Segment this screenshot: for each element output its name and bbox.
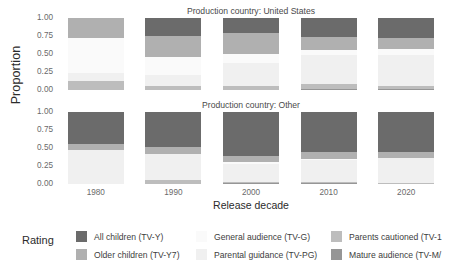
y-tick-label: 0.25	[21, 162, 53, 170]
bar-segment-tv-ma	[301, 89, 357, 90]
bar-segment-tv-pg	[301, 160, 357, 182]
legend-item-label: Older children (TV-Y7)	[94, 250, 180, 260]
bar-segment-tv-y	[145, 112, 201, 147]
bar-segment-tv-ma	[223, 183, 279, 184]
bar-other-1990	[145, 112, 201, 184]
x-axis-title: Release decade	[57, 199, 445, 211]
bar-segment-tv-pg	[68, 150, 124, 184]
y-tick-label: 0.00	[21, 86, 53, 94]
bar-segment-tv-g	[145, 57, 201, 75]
bar-segment-tv-pg	[301, 55, 357, 84]
bar-segment-tv-g	[223, 162, 279, 164]
bar-segment-tv-y7	[378, 38, 434, 49]
bar-segment-tv-14	[301, 84, 357, 88]
legend-swatch-icon	[76, 231, 87, 242]
bar-segment-tv-pg	[223, 164, 279, 182]
bar-segment-tv-g	[301, 159, 357, 160]
legend-swatch-icon	[76, 249, 87, 260]
legend-item[interactable]: Parents cautioned (TV-1	[331, 228, 442, 245]
bar-segment-tv-g	[301, 50, 357, 55]
legend: Rating All children (TV-Y)Older children…	[0, 222, 451, 269]
legend-item[interactable]: General audience (TV-G)	[196, 228, 317, 245]
legend-swatch-icon	[331, 231, 342, 242]
y-tick-label: 0.50	[21, 50, 53, 58]
legend-title: Rating	[22, 234, 54, 246]
y-tick-label: 0.25	[21, 68, 53, 76]
legend-item[interactable]: All children (TV-Y)	[76, 228, 180, 245]
bar-segment-tv-14	[378, 86, 434, 89]
legend-column-3: Parents cautioned (TV-1Mature audience (…	[331, 228, 442, 264]
legend-column-1: All children (TV-Y)Older children (TV-Y7…	[76, 228, 180, 264]
bar-segment-tv-y7	[301, 37, 357, 50]
bar-segment-tv-14	[223, 182, 279, 183]
facet-strip-united-states: Production country: United States	[57, 6, 445, 16]
legend-item-label: General audience (TV-G)	[214, 232, 310, 242]
bar-segment-tv-pg	[223, 63, 279, 85]
bar-segment-tv-y	[223, 18, 279, 33]
legend-item-label: All children (TV-Y)	[94, 232, 163, 242]
bar-segment-tv-y	[378, 112, 434, 152]
x-tick-label-2000: 2000	[242, 188, 260, 197]
legend-swatch-icon	[196, 249, 207, 260]
bar-other-1980	[68, 112, 124, 184]
bar-segment-tv-y	[301, 18, 357, 37]
chart-container: Proportion 1.000.750.500.250.00 1.000.75…	[0, 0, 451, 269]
legend-item-label: Parental guidance (TV-PG)	[214, 250, 317, 260]
bar-united-states-2000	[223, 18, 279, 90]
bar-united-states-2010	[301, 18, 357, 90]
x-tick-label-1980: 1980	[87, 188, 105, 197]
bar-segment-tv-y7	[301, 152, 357, 158]
bar-segment-tv-pg	[68, 73, 124, 82]
panel-other	[57, 112, 445, 184]
bar-segment-tv-pg	[378, 55, 434, 87]
bar-segment-tv-y7	[68, 18, 124, 38]
bar-segment-tv-pg	[378, 158, 434, 183]
bar-segment-tv-y7	[378, 152, 434, 158]
legend-item[interactable]: Older children (TV-Y7)	[76, 246, 180, 263]
x-tick-label-2010: 2010	[319, 188, 337, 197]
bar-segment-tv-ma	[378, 89, 434, 90]
legend-item[interactable]: Parental guidance (TV-PG)	[196, 246, 317, 263]
bar-segment-tv-14	[68, 81, 124, 90]
bar-other-2020	[378, 112, 434, 184]
bar-segment-tv-y7	[145, 36, 201, 57]
bar-segment-tv-g	[223, 54, 279, 63]
bar-segment-tv-g	[68, 38, 124, 73]
bar-segment-tv-y	[223, 112, 279, 156]
bar-segment-tv-14	[223, 86, 279, 90]
bar-united-states-2020	[378, 18, 434, 90]
legend-swatch-icon	[331, 249, 342, 260]
y-tick-label: 1.00	[21, 108, 53, 116]
bar-segment-tv-g	[378, 49, 434, 55]
legend-item-label: Parents cautioned (TV-1	[349, 232, 442, 242]
bar-other-2010	[301, 112, 357, 184]
bar-segment-tv-14	[145, 86, 201, 90]
bar-segment-tv-y7	[68, 144, 124, 150]
bar-segment-tv-14	[301, 182, 357, 183]
bar-segment-tv-y	[378, 18, 434, 38]
y-tick-label: 1.00	[21, 14, 53, 22]
bar-segment-tv-y7	[223, 33, 279, 54]
bar-segment-tv-14	[145, 180, 201, 184]
y-axis-ticks-top: 1.000.750.500.250.00	[3, 18, 53, 90]
bar-segment-tv-pg	[145, 75, 201, 87]
bar-segment-tv-y	[68, 112, 124, 144]
bar-segment-tv-y7	[145, 147, 201, 154]
y-tick-label: 0.75	[21, 126, 53, 134]
bar-segment-tv-y7	[223, 156, 279, 162]
x-tick-label-2020: 2020	[397, 188, 415, 197]
legend-item-label: Mature audience (TV-M/	[349, 250, 441, 260]
legend-item[interactable]: Mature audience (TV-M/	[331, 246, 442, 263]
legend-column-2: General audience (TV-G)Parental guidance…	[196, 228, 317, 264]
y-tick-label: 0.75	[21, 32, 53, 40]
bar-other-2000	[223, 112, 279, 184]
bar-segment-tv-y	[145, 18, 201, 36]
bar-segment-tv-14	[378, 183, 434, 184]
bar-united-states-1990	[145, 18, 201, 90]
y-tick-label: 0.50	[21, 144, 53, 152]
panel-united-states	[57, 18, 445, 90]
bar-segment-tv-y	[301, 112, 357, 152]
bar-united-states-1980	[68, 18, 124, 90]
bar-segment-tv-pg	[145, 154, 201, 180]
y-axis-ticks-bottom: 1.000.750.500.250.00	[3, 112, 53, 184]
